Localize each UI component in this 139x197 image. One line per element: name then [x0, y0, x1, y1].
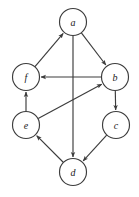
node-e[interactable]: e — [13, 112, 40, 139]
edge-f-to-a — [35, 33, 63, 66]
edge-c-to-d — [83, 135, 106, 161]
node-f[interactable]: f — [13, 64, 40, 91]
node-b[interactable]: b — [102, 64, 129, 91]
graph-figure: afbecd — [0, 0, 139, 197]
edge-a-to-b — [81, 33, 105, 65]
node-d[interactable]: d — [60, 159, 87, 186]
node-label-b: b — [113, 72, 118, 83]
edge-d-to-e — [37, 136, 64, 163]
node-a[interactable]: a — [60, 9, 87, 36]
node-label-c: c — [114, 120, 119, 131]
graph-canvas: afbecd — [0, 0, 139, 197]
edge-e-to-b — [38, 84, 102, 118]
node-label-a: a — [71, 17, 76, 28]
edges-layer — [26, 33, 116, 162]
node-c[interactable]: c — [103, 112, 130, 139]
node-label-e: e — [24, 120, 29, 131]
nodes-layer: afbecd — [13, 9, 130, 186]
